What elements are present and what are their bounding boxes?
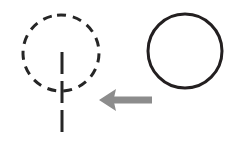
solid-circle-outline: [148, 14, 222, 88]
arrow-head-icon: [99, 89, 116, 111]
solid-circle: [148, 14, 222, 88]
arrow-shaft: [113, 97, 152, 104]
diagram-canvas: [0, 0, 234, 145]
dashed-tree-symbol: [19, 11, 103, 138]
diagram-svg: [0, 0, 234, 145]
transformation-arrow: [99, 89, 152, 111]
